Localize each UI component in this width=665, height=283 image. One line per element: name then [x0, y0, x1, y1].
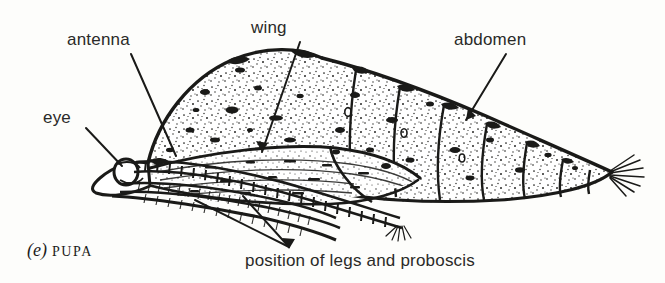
- pupa-body: [93, 49, 644, 241]
- leader-legs-a: [195, 200, 289, 247]
- figure-caption: (e)PUPA: [27, 240, 93, 261]
- label-legs-and-proboscis: position of legs and proboscis: [245, 252, 475, 269]
- label-eye: eye: [43, 109, 71, 126]
- leader-eye: [86, 128, 122, 166]
- caption-letter: (e): [27, 240, 47, 260]
- label-wing: wing: [251, 19, 287, 36]
- label-abdomen: abdomen: [454, 31, 526, 48]
- label-antenna: antenna: [67, 31, 130, 48]
- cremaster-bristles: [610, 155, 644, 196]
- caption-word: PUPA: [52, 244, 93, 259]
- leader-abdomen: [466, 54, 506, 120]
